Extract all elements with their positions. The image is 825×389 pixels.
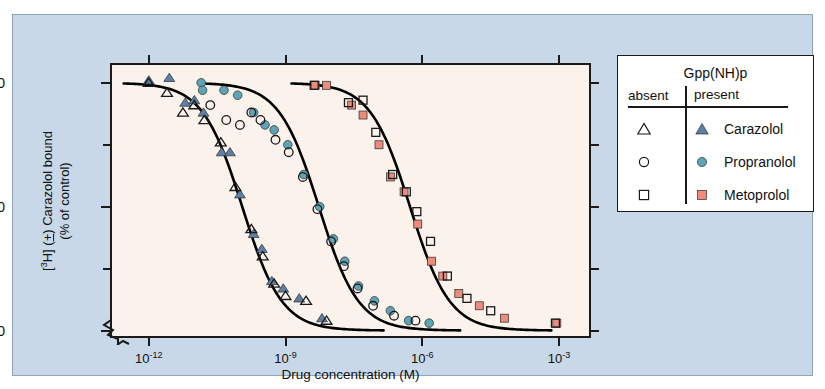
y-tick-label-100: 100 bbox=[0, 75, 5, 91]
circle-filled-icon bbox=[693, 153, 711, 171]
circle-open-icon bbox=[635, 153, 653, 171]
series-propranolol-absent bbox=[206, 101, 420, 325]
figure-container: [3H] (+) Carazolol bound (% of control) … bbox=[0, 0, 825, 389]
y-right-tick-0 bbox=[591, 330, 599, 332]
legend-row-propranolol[interactable]: Propranolol bbox=[618, 145, 813, 179]
legend-row-carazolol[interactable]: Carazolol bbox=[618, 112, 813, 146]
x-top-tick-2 bbox=[421, 55, 423, 63]
y-right-tick-100 bbox=[591, 82, 599, 84]
y-axis-title-line1: [3H] (+) Carazolol bound bbox=[40, 131, 55, 271]
axis-break-symbol bbox=[99, 311, 135, 345]
x-tick-1 bbox=[285, 338, 287, 346]
y-minor-tick-25 bbox=[103, 268, 110, 270]
legend-box: Gpp(NH)p absent present CarazololPropran… bbox=[617, 55, 814, 212]
x-tick-0 bbox=[148, 338, 150, 346]
legend-title: Gpp(NH)p bbox=[618, 65, 813, 81]
y-tick-label-0: 0 bbox=[0, 323, 5, 339]
y-right-tick-50 bbox=[591, 206, 599, 208]
x-tick-label-0: 10-12 bbox=[135, 350, 162, 366]
x-tick-label-1: 10-9 bbox=[274, 350, 296, 366]
x-tick-label-3: 10-3 bbox=[548, 350, 570, 366]
x-tick-3 bbox=[558, 338, 560, 346]
x-tick-2 bbox=[421, 338, 423, 346]
series-carazolol-absent bbox=[143, 78, 332, 324]
legend-row-metoprolol[interactable]: Metoprolol bbox=[618, 178, 813, 212]
y-right-tick-75 bbox=[591, 144, 599, 146]
series-carazolol-present bbox=[143, 73, 327, 322]
legend-header-rule bbox=[628, 106, 788, 108]
triangle-filled-icon bbox=[693, 120, 711, 138]
x-top-tick-3 bbox=[558, 55, 560, 63]
legend-label-metoprolol: Metoprolol bbox=[724, 187, 789, 203]
plot-area: 10-1210-910-610-3 100500 bbox=[110, 63, 591, 338]
x-top-tick-1 bbox=[285, 55, 287, 63]
figure-panel: [3H] (+) Carazolol bound (% of control) … bbox=[12, 14, 813, 376]
legend-column-present: present bbox=[694, 87, 739, 102]
series-metoprolol-absent bbox=[310, 81, 559, 327]
series-metoprolol-present bbox=[311, 81, 561, 327]
x-axis-title: Drug concentration (M) bbox=[110, 367, 591, 382]
legend-label-propranolol: Propranolol bbox=[724, 154, 796, 170]
data-plot-svg bbox=[110, 63, 591, 338]
x-tick-label-2: 10-6 bbox=[411, 350, 433, 366]
y-tick-label-50: 50 bbox=[0, 199, 5, 215]
fit-curve-2 bbox=[291, 83, 551, 330]
y-minor-tick-75 bbox=[103, 144, 110, 146]
square-open-icon bbox=[635, 186, 653, 204]
x-top-tick-0 bbox=[148, 55, 150, 63]
y-axis-title-line2: (% of control) bbox=[57, 162, 72, 239]
legend-label-carazolol: Carazolol bbox=[724, 121, 783, 137]
triangle-open-icon bbox=[635, 120, 653, 138]
y-right-tick-25 bbox=[591, 268, 599, 270]
fit-curve-0 bbox=[124, 83, 384, 330]
legend-column-absent: absent bbox=[628, 88, 669, 103]
y-axis-title: [3H] (+) Carazolol bound (% of control) bbox=[33, 63, 79, 338]
series-propranolol-present bbox=[197, 79, 434, 328]
square-filled-icon bbox=[693, 186, 711, 204]
